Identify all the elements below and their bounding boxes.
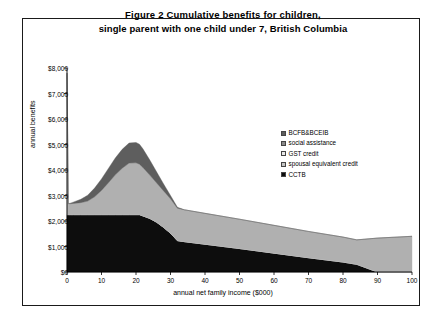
x-axis-label: annual net family income ($000) xyxy=(0,289,446,296)
y-tick-label: $0 xyxy=(61,269,68,276)
x-tick-label: 90 xyxy=(374,277,381,284)
y-tick-label: $1,000 xyxy=(48,243,68,250)
legend-label: CCTB xyxy=(289,170,306,180)
legend-item: CCTB xyxy=(281,170,358,180)
y-tick-label: $4,000 xyxy=(48,167,68,174)
legend-label: BCFB&BCEIB xyxy=(289,128,329,138)
y-tick-label: $8,000 xyxy=(48,65,68,72)
x-tick-label: 60 xyxy=(270,277,277,284)
legend-swatch-icon xyxy=(281,141,286,146)
legend-label: GST credit xyxy=(289,149,319,159)
legend-item: spousal equivalent credit xyxy=(281,159,358,169)
legend-label: spousal equivalent credit xyxy=(289,159,358,169)
y-tick-label: $6,000 xyxy=(48,116,68,123)
chart-legend: BCFB&BCEIBsocial assistanceGST creditspo… xyxy=(281,128,358,180)
x-tick-label: 70 xyxy=(305,277,312,284)
x-tick-label: 30 xyxy=(167,277,174,284)
legend-item: GST credit xyxy=(281,149,358,159)
legend-label: social assistance xyxy=(289,138,337,148)
y-tick-label: $2,000 xyxy=(48,218,68,225)
y-tick-label: $3,000 xyxy=(48,192,68,199)
legend-item: social assistance xyxy=(281,138,358,148)
x-tick-label: 20 xyxy=(132,277,139,284)
x-tick-label: 80 xyxy=(339,277,346,284)
x-tick-label: 40 xyxy=(201,277,208,284)
x-tick-label: 0 xyxy=(65,277,69,284)
y-tick-label: $5,000 xyxy=(48,141,68,148)
legend-swatch-icon xyxy=(281,131,286,136)
legend-swatch-icon xyxy=(281,172,286,177)
x-tick-label: 100 xyxy=(407,277,418,284)
y-tick-label: $7,000 xyxy=(48,90,68,97)
legend-swatch-icon xyxy=(281,151,286,156)
legend-item: BCFB&BCEIB xyxy=(281,128,358,138)
x-tick-label: 50 xyxy=(236,277,243,284)
y-axis-label: annual benefits xyxy=(29,101,36,148)
x-tick-label: 10 xyxy=(98,277,105,284)
legend-swatch-icon xyxy=(281,162,286,167)
